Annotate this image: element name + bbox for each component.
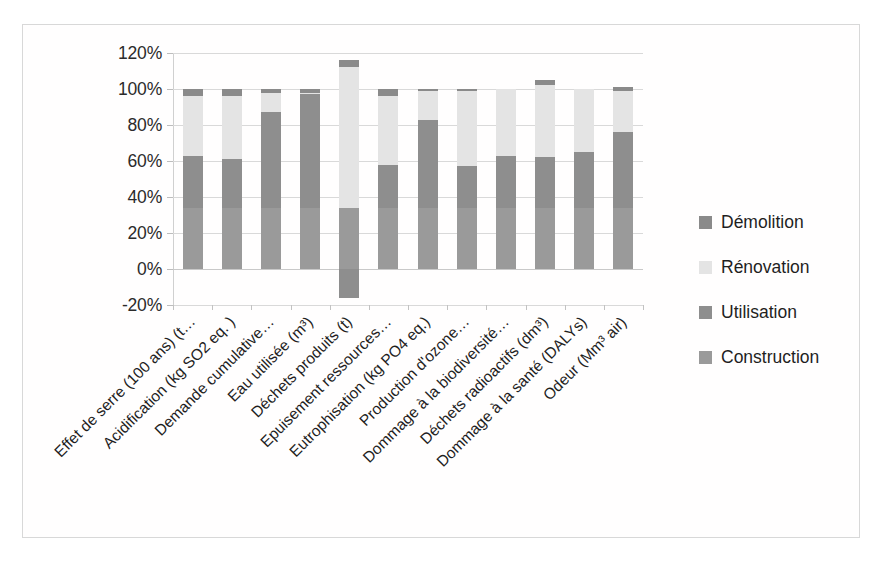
- y-axis-tick: [167, 161, 173, 162]
- gridline: [173, 161, 643, 162]
- bar-segment-construction: [418, 208, 438, 269]
- bar-segment-demolition: [300, 89, 320, 93]
- bar-column[interactable]: [378, 53, 398, 305]
- bar-segment-renovation: [222, 96, 242, 159]
- bar-segment-demolition: [535, 80, 555, 85]
- legend-item-label: Rénovation: [721, 257, 810, 278]
- bar-segment-utilisation: [574, 152, 594, 208]
- y-axis-tick-label: 60%: [128, 151, 162, 172]
- gridline: [173, 197, 643, 198]
- y-axis-tick-label: 40%: [128, 187, 162, 208]
- bar-column[interactable]: [222, 53, 242, 305]
- bar-segment-utilisation: [457, 166, 477, 207]
- legend-item-label: Construction: [721, 347, 819, 368]
- bar-segment-renovation: [183, 96, 203, 155]
- bar-segment-construction: [183, 208, 203, 269]
- legend-item[interactable]: Construction: [699, 335, 882, 380]
- bar-segment-demolition: [339, 60, 359, 67]
- y-axis-tick-label: 80%: [128, 115, 162, 136]
- bar-column[interactable]: [496, 53, 516, 305]
- bar-segment-construction: [613, 208, 633, 269]
- y-axis-tick: [167, 125, 173, 126]
- legend-item[interactable]: Utilisation: [699, 290, 882, 335]
- legend-swatch-icon: [699, 351, 712, 364]
- bar-segment-demolition: [183, 89, 203, 96]
- bar-column[interactable]: [418, 53, 438, 305]
- bar-segment-renovation: [535, 85, 555, 157]
- y-axis-tick-label: 120%: [118, 43, 162, 64]
- bar-segment-construction: [339, 208, 359, 269]
- bar-segment-construction: [300, 208, 320, 269]
- y-axis-tick: [167, 233, 173, 234]
- legend-swatch-icon: [699, 306, 712, 319]
- legend-item-label: Démolition: [721, 212, 804, 233]
- y-axis-tick: [167, 89, 173, 90]
- bar-segment-demolition: [261, 89, 281, 93]
- bar-column[interactable]: [574, 53, 594, 305]
- y-axis-tick: [167, 269, 173, 270]
- bar-segment-utilisation: [339, 269, 359, 298]
- bar-segment-renovation: [418, 91, 438, 120]
- bar-column[interactable]: [300, 53, 320, 305]
- bar-segment-construction: [574, 208, 594, 269]
- legend-item[interactable]: Rénovation: [699, 245, 882, 290]
- bar-segment-renovation: [339, 67, 359, 207]
- bar-segment-construction: [378, 208, 398, 269]
- bar-segment-renovation: [574, 89, 594, 152]
- chart-legend: DémolitionRénovationUtilisationConstruct…: [699, 200, 882, 380]
- bar-column[interactable]: [613, 53, 633, 305]
- bar-segment-demolition: [613, 87, 633, 91]
- bar-segment-renovation: [496, 89, 516, 156]
- chart-page: 120%100%80%60%40%20%0%-20% Effet de serr…: [0, 0, 882, 579]
- bar-column[interactable]: [183, 53, 203, 305]
- y-axis-tick-label: 20%: [128, 223, 162, 244]
- bar-segment-construction: [496, 208, 516, 269]
- bar-segment-utilisation: [418, 120, 438, 208]
- bar-segment-construction: [222, 208, 242, 269]
- y-axis-tick-label: 100%: [118, 79, 162, 100]
- y-axis-tick: [167, 53, 173, 54]
- bar-column[interactable]: [535, 53, 555, 305]
- bar-segment-utilisation: [378, 165, 398, 208]
- bar-segment-renovation: [613, 91, 633, 132]
- legend-item[interactable]: Démolition: [699, 200, 882, 245]
- y-axis-tick: [167, 197, 173, 198]
- legend-item-label: Utilisation: [721, 302, 797, 323]
- gridline: [173, 89, 643, 90]
- bar-segment-utilisation: [496, 156, 516, 208]
- bar-segment-demolition: [222, 89, 242, 96]
- gridline: [173, 269, 643, 270]
- bar-segment-renovation: [300, 93, 320, 95]
- bar-segment-utilisation: [300, 94, 320, 207]
- bar-segment-construction: [457, 208, 477, 269]
- bar-segment-utilisation: [261, 112, 281, 207]
- y-axis-line: [173, 53, 174, 305]
- bar-segment-utilisation: [613, 132, 633, 208]
- bar-segment-renovation: [261, 93, 281, 113]
- bar-column[interactable]: [261, 53, 281, 305]
- legend-swatch-icon: [699, 216, 712, 229]
- bar-segment-utilisation: [222, 159, 242, 208]
- chart-frame: 120%100%80%60%40%20%0%-20% Effet de serr…: [22, 24, 860, 538]
- legend-swatch-icon: [699, 261, 712, 274]
- y-axis-tick-label: 0%: [137, 259, 162, 280]
- gridline: [173, 233, 643, 234]
- bar-segment-demolition: [378, 89, 398, 96]
- bar-segment-utilisation: [183, 156, 203, 208]
- gridline: [173, 125, 643, 126]
- bar-column[interactable]: [457, 53, 477, 305]
- bar-segment-renovation: [378, 96, 398, 164]
- bar-segment-demolition: [457, 89, 477, 91]
- figure-caption: [0, 560, 882, 579]
- bar-segment-construction: [535, 208, 555, 269]
- bar-segment-utilisation: [535, 157, 555, 207]
- x-axis-category-labels: Effet de serre (100 ans) (t…Acidificatio…: [173, 305, 673, 515]
- bar-column[interactable]: [339, 53, 359, 305]
- bar-segment-construction: [261, 208, 281, 269]
- gridline: [173, 53, 643, 54]
- y-axis-tick-label: -20%: [122, 295, 162, 316]
- bar-segment-demolition: [418, 89, 438, 91]
- bar-segment-renovation: [457, 91, 477, 167]
- plot-area: 120%100%80%60%40%20%0%-20%: [173, 53, 643, 305]
